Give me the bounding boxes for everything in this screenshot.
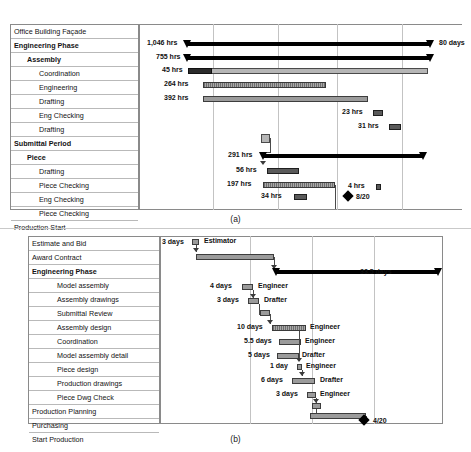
task-row-estimate-and-bid[interactable]: Estimate and Bid [29, 237, 159, 251]
bar-drafting-3-a[interactable] [267, 168, 299, 174]
summary-cap-left-icon [259, 152, 267, 160]
task-row-production-drawings[interactable]: Production drawings [29, 377, 159, 391]
task-row-drafting-3[interactable]: Drafting [11, 165, 138, 179]
bar-coordination-b[interactable] [279, 339, 301, 345]
link-arrow-piece-design-icon [299, 372, 305, 376]
resource-label-estimator-b: Estimator [204, 237, 236, 245]
bar-drafting-1-a[interactable] [203, 96, 368, 102]
bar-label-piece-design-b: 1 day [270, 362, 288, 370]
summary-cap-left-icon [183, 54, 191, 62]
bar-purchasing-b[interactable] [310, 413, 366, 419]
task-row-engineering-phase[interactable]: Engineering Phase [11, 39, 138, 53]
bar-label-drafting-1-a: 392 hrs [164, 94, 189, 102]
bar-drafting-2-a[interactable] [389, 124, 401, 130]
link-arrow-piece-down-icon [260, 161, 266, 165]
task-row-submittal-period[interactable]: Submittal Period [11, 137, 138, 151]
timeline-border-right-b [442, 236, 443, 424]
bar-label-eng-checking-2-a: 34 hrs [261, 192, 282, 200]
bar-coordination-tail-a[interactable] [188, 68, 428, 74]
bar-label-model-assembly-detail-b: 5 days [248, 351, 270, 359]
task-row-drafting-2[interactable]: Drafting [11, 123, 138, 137]
summary-cap-left-icon [272, 268, 280, 276]
task-row-piece-checking-1[interactable]: Piece Checking [11, 179, 138, 193]
task-row-submittal-review[interactable]: Submittal Review [29, 307, 159, 321]
bar-submittal-period-a[interactable] [261, 134, 270, 143]
bar-assembly-a[interactable] [187, 56, 430, 60]
task-row-coordination[interactable]: Coordination [11, 67, 138, 81]
resource-label-engineer-b-3: Engineer [305, 337, 335, 345]
timeline-border-left-a [139, 24, 140, 210]
timeline-border-top-a [139, 24, 462, 25]
bar-model-assembly-b[interactable] [242, 284, 253, 290]
task-row-model-assembly[interactable]: Model assembly [29, 279, 159, 293]
bar-label-piece-a: 291 hrs [228, 151, 253, 159]
bar-label-model-assembly-b: 4 days [210, 282, 232, 290]
task-row-office-building-facade[interactable]: Office Building Façade [11, 25, 138, 39]
gantt-chart-a: Office Building Façade Engineering Phase… [10, 24, 462, 210]
task-row-assembly-design[interactable]: Assembly design [29, 321, 159, 335]
timeline-border-left-b [160, 236, 161, 424]
task-row-assembly-drawings[interactable]: Assembly drawings [29, 293, 159, 307]
bar-label-eng-checking-1-a: 23 hrs [342, 108, 363, 116]
timeline-area-a[interactable]: 1,046 hrs 80 days 755 hrs 45 hrs 264 hrs… [139, 24, 462, 210]
bar-piece-checking-2-a[interactable] [376, 184, 381, 190]
bar-label-engineering-a: 264 hrs [164, 80, 189, 88]
bar-engineering-phase-a[interactable] [187, 42, 430, 46]
bar-coordination-a[interactable] [188, 68, 212, 74]
timeline-border-bottom-b [160, 423, 443, 424]
task-row-piece-dwg-check[interactable]: Piece Dwg Check [29, 391, 159, 405]
task-row-drafting-1[interactable]: Drafting [11, 95, 138, 109]
milestone-label-start-production-b: 4/20 [373, 417, 387, 425]
link-detail-down [299, 331, 300, 361]
bar-label-assembly-drawings-b: 3 days [217, 296, 239, 304]
link-piece-checking-down [335, 185, 336, 209]
bar-submittal-review-b[interactable] [260, 310, 270, 316]
resource-label-drafter-b-1: Drafter [264, 296, 287, 304]
task-list-a: Office Building Façade Engineering Phase… [10, 24, 139, 210]
bar-award-contract-b[interactable] [196, 254, 274, 260]
task-row-eng-checking-1[interactable]: Eng Checking [11, 109, 138, 123]
link-arrow-estimate-icon [193, 248, 199, 252]
task-row-model-assembly-detail[interactable]: Model assembly detail [29, 349, 159, 363]
bar-label-production-drawings-b: 6 days [261, 376, 283, 384]
timeline-area-b[interactable]: 3 days Estimator 33.5 days 4 days Engine… [160, 236, 443, 424]
milestone-production-start-a[interactable] [342, 190, 353, 201]
summary-cap-left-icon [183, 40, 191, 48]
task-row-engineering[interactable]: Engineering [11, 81, 138, 95]
bar-label-piece-checking-2-a: 4 hrs [348, 182, 365, 190]
timeline-border-top-b [160, 236, 443, 237]
bar-piece-dwg-check-b[interactable] [307, 392, 316, 398]
bar-engineering-a[interactable] [203, 82, 326, 88]
figure-page: Office Building Façade Engineering Phase… [0, 0, 471, 452]
bar-eng-checking-1-a[interactable] [373, 110, 383, 116]
task-row-engineering-phase-b[interactable]: Engineering Phase [29, 265, 159, 279]
task-row-eng-checking-2[interactable]: Eng Checking [11, 193, 138, 207]
link-arrow-submittal-review-icon [267, 320, 273, 324]
summary-cap-right-icon [426, 40, 434, 48]
task-row-assembly[interactable]: Assembly [11, 53, 138, 67]
bar-piece-a[interactable] [263, 154, 423, 158]
link-arrow-detail-icon [296, 358, 302, 362]
bar-assembly-design-b[interactable] [272, 325, 306, 331]
task-row-award-contract[interactable]: Award Contract [29, 251, 159, 265]
task-list-b: Estimate and Bid Award Contract Engineer… [28, 236, 160, 424]
bar-label-piece-checking-1-a: 197 hrs [227, 180, 252, 188]
resource-label-engineer-b-5: Engineer [320, 390, 350, 398]
gridline-b-3 [374, 236, 375, 424]
gantt-chart-b: Estimate and Bid Award Contract Engineer… [28, 236, 443, 424]
task-row-production-planning[interactable]: Production Planning [29, 405, 159, 419]
task-row-purchasing[interactable]: Purchasing [29, 419, 159, 433]
bar-production-drawings-b[interactable] [292, 378, 315, 384]
resource-label-engineer-b-4: Engineer [306, 362, 336, 370]
bar-assembly-drawings-b[interactable] [248, 298, 259, 304]
bar-piece-checking-1-a[interactable] [263, 182, 335, 188]
bar-label-drafting-2-a: 31 hrs [358, 122, 379, 130]
bar-engineering-phase-b[interactable] [276, 270, 438, 274]
bar-eng-checking-2-a[interactable] [294, 194, 307, 200]
task-row-piece[interactable]: Piece [11, 151, 138, 165]
resource-label-drafter-b-2: Drafter [302, 351, 325, 359]
bar-end-label-80-days: 80 days [439, 39, 465, 47]
task-row-piece-design[interactable]: Piece design [29, 363, 159, 377]
task-row-coordination-b[interactable]: Coordination [29, 335, 159, 349]
caption-b: (b) [0, 434, 471, 444]
